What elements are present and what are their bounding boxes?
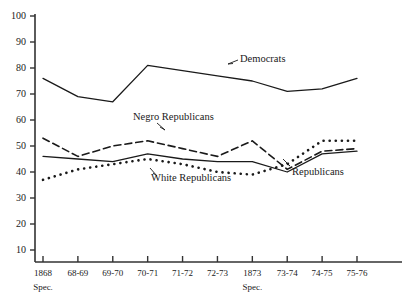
x-tick-label-9: 75-76 — [334, 268, 380, 278]
data-series-group — [43, 65, 357, 179]
series-line-negro-republicans — [43, 138, 357, 169]
series-label-republicans: Republicans — [292, 166, 344, 177]
y-tick-label-20: 20 — [0, 219, 26, 229]
y-tick-label-30: 30 — [0, 193, 26, 203]
x-axis-ticks — [43, 256, 357, 262]
y-tick-label-80: 80 — [0, 63, 26, 73]
chart-plot-area — [0, 0, 414, 298]
x-tick-sublabel-6: Spec. — [229, 282, 275, 292]
x-tick-sublabel-0: Spec. — [20, 282, 66, 292]
y-tick-label-10: 10 — [0, 245, 26, 255]
axis-lines — [35, 14, 402, 262]
y-tick-label-90: 90 — [0, 37, 26, 47]
chart-figure: 102030405060708090100 1868Spec.68-6969-7… — [0, 0, 414, 298]
series-label-democrats: Democrats — [240, 53, 285, 64]
series-label-negro-republicans: Negro Republicans — [133, 111, 214, 122]
y-tick-label-50: 50 — [0, 141, 26, 151]
y-tick-label-100: 100 — [0, 11, 26, 21]
y-tick-label-40: 40 — [0, 167, 26, 177]
y-tick-label-60: 60 — [0, 115, 26, 125]
series-label-white-republicans: White Republicans — [151, 172, 231, 183]
series-line-democrats — [43, 65, 357, 101]
y-tick-label-70: 70 — [0, 89, 26, 99]
